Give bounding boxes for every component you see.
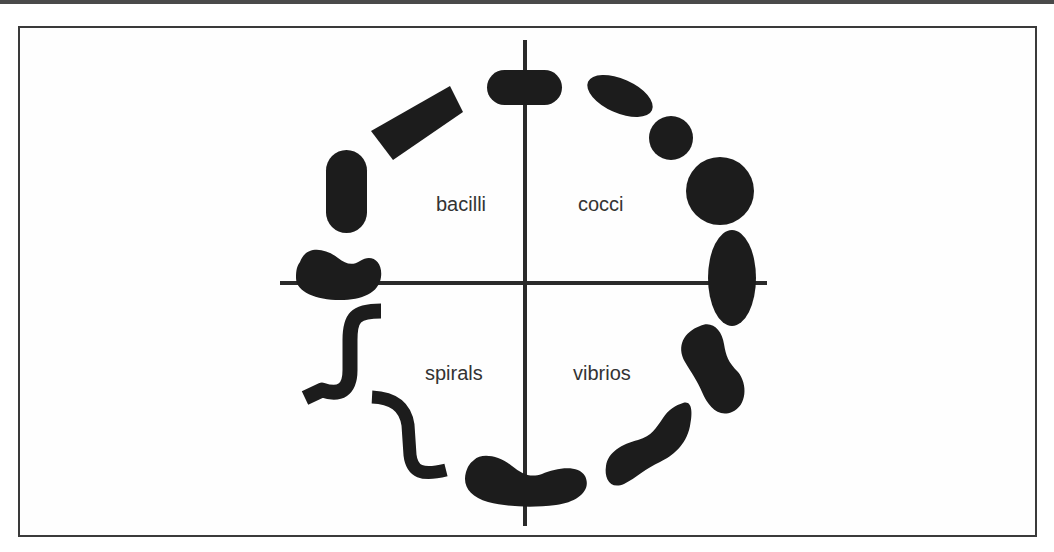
coccus-vertical-ellipse	[708, 230, 756, 326]
bacillus-rod-top	[487, 70, 562, 105]
label-cocci: cocci	[578, 193, 624, 215]
vibrio-peanut-lower	[606, 403, 692, 486]
label-spirals: spirals	[425, 362, 483, 384]
bean-shape-left	[296, 250, 381, 300]
spiral-lower	[372, 397, 446, 473]
coccus-small	[649, 116, 693, 160]
vibrio-peanut-upper	[681, 324, 744, 413]
label-bacilli: bacilli	[436, 193, 486, 215]
coccus-large	[686, 157, 754, 225]
morphology-diagram: bacilli cocci spirals vibrios	[0, 0, 1054, 552]
bacillus-rectangle	[371, 86, 463, 160]
bacillus-rod-vertical	[326, 150, 367, 233]
coccus-tilted-ellipse	[581, 66, 659, 126]
spiral-upper	[305, 311, 381, 398]
label-vibrios: vibrios	[573, 362, 631, 384]
